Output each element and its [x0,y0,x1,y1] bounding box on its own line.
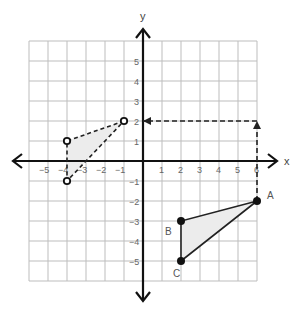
vertex-point-a [253,197,261,205]
y-axis-label: y [140,10,146,22]
x-tick-label: 3 [197,165,202,175]
x-tick-label: 5 [235,165,240,175]
image-vertex-point [64,138,70,144]
x-axis-label: x [284,155,290,167]
x-tick-label: 4 [216,165,221,175]
y-tick-label: 2 [134,117,139,127]
vertex-label-c: C [173,268,180,279]
y-tick-label: −3 [129,217,139,227]
y-tick-label: 4 [134,77,139,87]
translation-path [143,117,261,201]
vertex-point-b [177,217,185,225]
y-tick-label: 1 [134,137,139,147]
vertex-label-a: A [267,190,274,201]
y-tick-label: −4 [129,237,139,247]
x-tick-label: −1 [115,165,125,175]
y-tick-label: −2 [129,197,139,207]
vertex-label-b: B [165,226,172,237]
image-vertex-point [64,178,70,184]
y-tick-label: −1 [129,177,139,187]
x-tick-label: −5 [39,165,49,175]
arrow-left-icon [143,117,151,125]
x-tick-label: −2 [96,165,106,175]
y-tick-label: 5 [134,57,139,67]
y-tick-label: 3 [134,97,139,107]
y-tick-label: −5 [129,257,139,267]
x-tick-label: 1 [159,165,164,175]
vertex-point-c [177,257,185,265]
x-tick-label: −3 [77,165,87,175]
coordinate-plane: −5−4−3−2−1123456−5−4−3−2−112345 ABC x y [0,0,293,317]
image-vertex-point [121,118,127,124]
arrow-up-icon [253,121,261,129]
x-tick-label: 2 [178,165,183,175]
